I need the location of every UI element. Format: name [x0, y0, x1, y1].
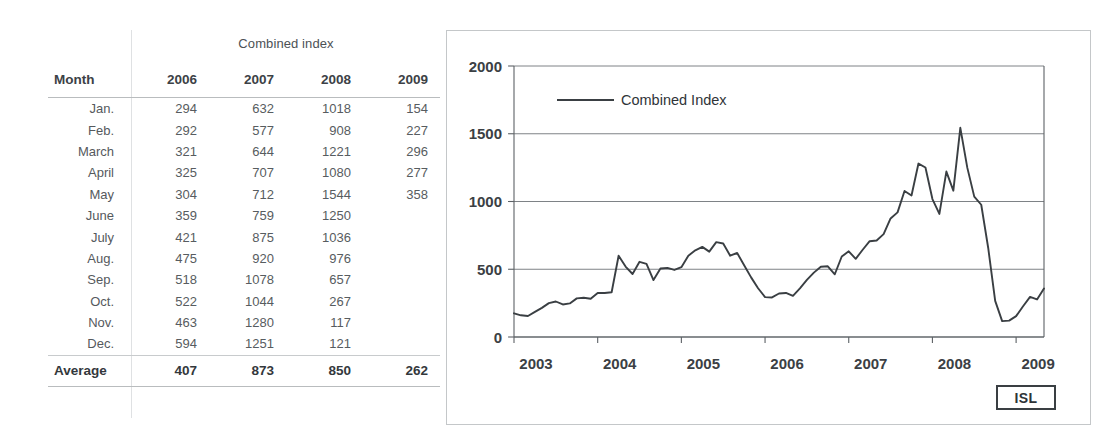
cell-2006: 463 — [132, 312, 209, 333]
average-2007: 873 — [209, 355, 286, 386]
row-month-label: Oct. — [48, 291, 132, 312]
cell-2009: 227 — [363, 119, 440, 140]
cell-2008: 657 — [286, 269, 363, 290]
svg-text:2003: 2003 — [519, 355, 552, 372]
cell-2006: 304 — [132, 184, 209, 205]
cell-2008: 908 — [286, 119, 363, 140]
svg-text:2005: 2005 — [687, 355, 720, 372]
cell-2006: 475 — [132, 248, 209, 269]
combined-index-table: Combined index Month 2006 2007 2008 2009… — [48, 26, 440, 387]
cell-2007: 632 — [209, 98, 286, 120]
table-caption: Combined index — [132, 26, 440, 64]
cell-2006: 359 — [132, 205, 209, 226]
table-row: May 304 712 1544 358 — [48, 184, 440, 205]
cell-2009: 154 — [363, 98, 440, 120]
cell-2006: 325 — [132, 162, 209, 183]
table-row: Aug. 475 920 976 — [48, 248, 440, 269]
cell-2007: 712 — [209, 184, 286, 205]
cell-2009: 277 — [363, 162, 440, 183]
chart-tick-marks — [508, 66, 1016, 343]
svg-text:1500: 1500 — [469, 125, 502, 142]
cell-2009 — [363, 205, 440, 226]
svg-text:500: 500 — [477, 261, 502, 278]
average-label: Average — [48, 355, 132, 386]
average-2008: 850 — [286, 355, 363, 386]
cell-2009 — [363, 226, 440, 247]
cell-2008: 267 — [286, 291, 363, 312]
table-row: March 321 644 1221 296 — [48, 141, 440, 162]
cell-2006: 292 — [132, 119, 209, 140]
cell-2007: 644 — [209, 141, 286, 162]
cell-2009 — [363, 269, 440, 290]
cell-2006: 321 — [132, 141, 209, 162]
chart-series-combined-index — [514, 128, 1044, 321]
cell-2007: 1251 — [209, 333, 286, 354]
column-header-2009: 2009 — [363, 64, 440, 97]
svg-text:2008: 2008 — [938, 355, 971, 372]
source-badge-isl: ISL — [996, 385, 1056, 410]
average-2006: 407 — [132, 355, 209, 386]
cell-2006: 518 — [132, 269, 209, 290]
cell-2009 — [363, 291, 440, 312]
table-row: July 421 875 1036 — [48, 226, 440, 247]
row-month-label: Feb. — [48, 119, 132, 140]
svg-text:0: 0 — [494, 329, 502, 346]
cell-2007: 1044 — [209, 291, 286, 312]
cell-2008: 1221 — [286, 141, 363, 162]
svg-text:2006: 2006 — [770, 355, 803, 372]
row-month-label: May — [48, 184, 132, 205]
cell-2008: 1036 — [286, 226, 363, 247]
row-month-label: June — [48, 205, 132, 226]
table-bottom-rule — [48, 386, 440, 387]
chart-y-tick-labels: 0500100015002000 — [469, 58, 502, 346]
cell-2007: 759 — [209, 205, 286, 226]
cell-2006: 294 — [132, 98, 209, 120]
average-2009: 262 — [363, 355, 440, 386]
table-caption-row: Combined index — [48, 26, 440, 64]
column-header-2007: 2007 — [209, 64, 286, 97]
svg-text:2000: 2000 — [469, 58, 502, 75]
combined-index-chart-panel: 0500100015002000 20032004200520062007200… — [446, 30, 1091, 425]
cell-2007: 1078 — [209, 269, 286, 290]
table-row: June 359 759 1250 — [48, 205, 440, 226]
row-month-label: Jan. — [48, 98, 132, 120]
table-row: Dec. 594 1251 121 — [48, 333, 440, 354]
table-row: Nov. 463 1280 117 — [48, 312, 440, 333]
table-header-row: Month 2006 2007 2008 2009 — [48, 64, 440, 97]
index-table-panel: Combined index Month 2006 2007 2008 2009… — [0, 0, 446, 445]
svg-text:2004: 2004 — [603, 355, 637, 372]
average-row: Average 407 873 850 262 — [48, 355, 440, 386]
cell-2007: 707 — [209, 162, 286, 183]
row-month-label: Aug. — [48, 248, 132, 269]
svg-text:2009: 2009 — [1021, 355, 1054, 372]
cell-2007: 875 — [209, 226, 286, 247]
table-row: Sep. 518 1078 657 — [48, 269, 440, 290]
cell-2006: 421 — [132, 226, 209, 247]
cell-2008: 976 — [286, 248, 363, 269]
source-badge-label: ISL — [1015, 390, 1038, 406]
table-row: Feb. 292 577 908 227 — [48, 119, 440, 140]
cell-2008: 1080 — [286, 162, 363, 183]
chart-x-tick-labels: 2003200420052006200720082009 — [519, 355, 1054, 372]
cell-2008: 1544 — [286, 184, 363, 205]
table-row: Jan. 294 632 1018 154 — [48, 98, 440, 120]
legend-label-combined-index: Combined Index — [621, 92, 727, 108]
combined-index-line-chart: 0500100015002000 20032004200520062007200… — [447, 31, 1090, 424]
cell-2007: 577 — [209, 119, 286, 140]
cell-2009 — [363, 312, 440, 333]
cell-2009: 358 — [363, 184, 440, 205]
cell-2009 — [363, 248, 440, 269]
column-header-month: Month — [48, 64, 132, 97]
row-month-label: March — [48, 141, 132, 162]
caption-spacer — [48, 26, 132, 64]
cell-2009 — [363, 333, 440, 354]
cell-2008: 1018 — [286, 98, 363, 120]
cell-2007: 920 — [209, 248, 286, 269]
column-header-2008: 2008 — [286, 64, 363, 97]
svg-text:1000: 1000 — [469, 193, 502, 210]
table-row: Oct. 522 1044 267 — [48, 291, 440, 312]
row-month-label: Dec. — [48, 333, 132, 354]
cell-2009: 296 — [363, 141, 440, 162]
cell-2008: 121 — [286, 333, 363, 354]
column-header-2006: 2006 — [132, 64, 209, 97]
